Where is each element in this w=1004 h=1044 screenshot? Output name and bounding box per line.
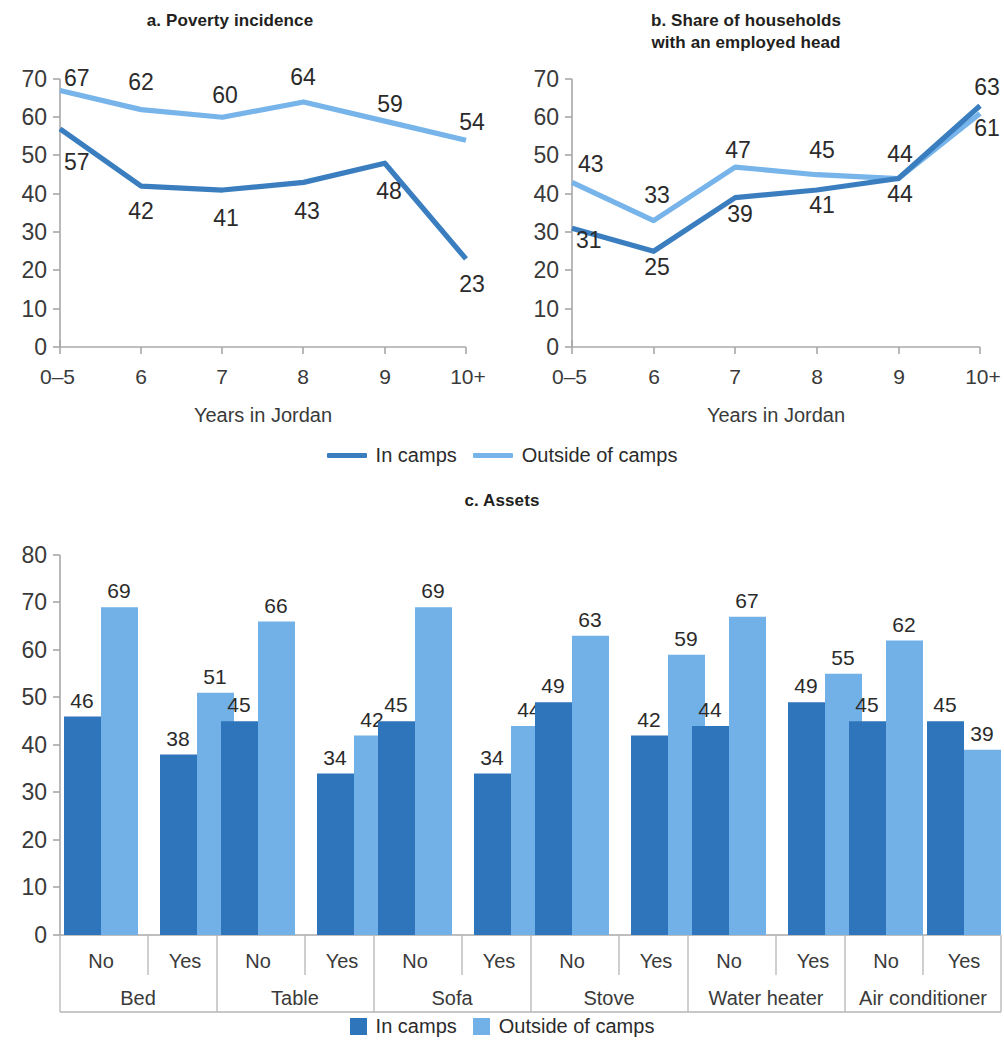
bar-value-label: 49	[794, 674, 817, 697]
data-label: 64	[290, 64, 316, 90]
legend-swatch-outside-of-camps-bar	[473, 1018, 490, 1035]
bar-value-label: 69	[421, 579, 444, 602]
x-tick-label-1: 6	[135, 365, 147, 388]
data-label: 62	[128, 69, 154, 95]
data-label: 61	[974, 115, 1000, 141]
bar-in-camps	[849, 721, 886, 935]
x-tick-label-4: 9	[379, 365, 391, 388]
bar-outside	[101, 607, 138, 935]
y-tick-60: 60	[21, 104, 60, 130]
chart-a-x-axis: 0–5 6 7 8 9 10+ Years in Jordan	[40, 340, 486, 426]
bar-in-camps	[535, 702, 572, 935]
subcat-label: Yes	[640, 950, 673, 972]
subcat-label: Yes	[326, 950, 359, 972]
bar-value-label: 46	[70, 689, 93, 712]
chart-a-labels-outside: 67 62 60 64 59 54	[64, 64, 485, 135]
chart-b-x-axis-title: Years in Jordan	[707, 404, 845, 426]
chart-a-y-axis: 70 60 50 40 30 20 10 0	[21, 66, 60, 360]
chart-b-line-outside	[572, 113, 980, 220]
x-tick-label-0: 0–5	[552, 365, 587, 388]
group-label-sofa: Sofa	[431, 987, 473, 1009]
data-label: 33	[644, 182, 670, 208]
bar-outside	[964, 750, 1001, 935]
y-tick-0: 0	[34, 334, 60, 360]
subcat-label: Yes	[797, 950, 830, 972]
legend-label-in-camps: In camps	[376, 445, 457, 465]
subcat-label: No	[88, 950, 114, 972]
data-label: 48	[376, 178, 402, 204]
x-tick-label-3: 8	[297, 365, 309, 388]
bar-chart-legend: In camps Outside of camps	[252, 1012, 752, 1040]
y-tick-label: 10	[533, 296, 559, 322]
y-tick-30: 30	[21, 219, 60, 245]
bar-value-label: 67	[735, 589, 758, 612]
y-tick-label: 0	[34, 922, 47, 948]
bar-pair-air-conditioner-no: 45 62	[849, 613, 923, 936]
legend-label-in-camps-bar: In camps	[376, 1016, 457, 1036]
y-tick-label: 40	[533, 181, 559, 207]
y-tick-label: 60	[533, 104, 559, 130]
group-label-air-conditioner: Air conditioner	[859, 987, 987, 1009]
bar-pair-air-conditioner-yes: 45 39	[927, 693, 1001, 935]
chart-b-line-in-camps	[572, 106, 980, 251]
data-label: 67	[64, 65, 90, 91]
subcat-label: Yes	[169, 950, 202, 972]
bar-in-camps	[788, 702, 825, 935]
bar-value-label: 69	[107, 579, 130, 602]
y-tick-label: 30	[21, 779, 47, 805]
group-label-bed: Bed	[120, 987, 156, 1009]
bar-value-label: 34	[480, 746, 504, 769]
y-tick-label: 70	[533, 66, 559, 92]
bar-value-label: 49	[541, 674, 564, 697]
data-label: 44	[887, 181, 913, 207]
y-tick-label: 60	[21, 637, 47, 663]
bar-pair-water-heater-no: 44 67	[692, 589, 766, 935]
chart-c-category-axis: No Yes No Yes No Yes No Yes No Yes No Ye…	[60, 935, 1001, 1012]
legend-entry-in-camps: In camps	[327, 445, 457, 465]
data-label: 41	[809, 192, 835, 218]
bar-in-camps	[160, 755, 197, 936]
subcat-label: No	[559, 950, 585, 972]
y-tick-40: 40	[21, 181, 60, 207]
panel-poverty-incidence: a. Poverty incidence 70 60 50 40 30 20 1…	[0, 0, 502, 430]
bar-value-label: 66	[264, 594, 287, 617]
chart-b-plot: 70 60 50 40 30 20 10 0 0–5	[502, 0, 1004, 430]
group-label-stove: Stove	[583, 987, 634, 1009]
subcat-label: No	[716, 950, 742, 972]
y-tick-label: 30	[533, 219, 559, 245]
bar-value-label: 63	[578, 608, 601, 631]
data-label: 45	[809, 137, 835, 163]
data-label: 41	[213, 205, 239, 231]
y-tick-10: 10	[21, 296, 60, 322]
y-tick-20: 20	[21, 257, 60, 283]
legend-entry-in-camps-bar: In camps	[350, 1016, 457, 1036]
bar-in-camps	[474, 774, 511, 936]
group-label-water-heater: Water heater	[709, 987, 824, 1009]
bar-value-label: 39	[970, 722, 993, 745]
bar-in-camps	[221, 721, 258, 935]
data-label: 42	[128, 198, 154, 224]
data-label: 39	[727, 201, 753, 227]
y-tick-70: 70	[21, 66, 60, 92]
legend-entry-outside-of-camps: Outside of camps	[473, 445, 678, 465]
x-tick-label-3: 8	[811, 365, 823, 388]
bar-in-camps	[927, 721, 964, 935]
panel-employed-head-share: b. Share of households with an employed …	[502, 0, 1004, 430]
data-label: 57	[64, 149, 90, 175]
legend-label-outside-of-camps: Outside of camps	[522, 445, 678, 465]
line-charts-legend: In camps Outside of camps	[252, 440, 752, 470]
chart-a-line-in-camps	[60, 129, 466, 259]
x-tick-label-5: 10+	[450, 365, 486, 388]
data-label: 43	[294, 198, 320, 224]
legend-label-outside-of-camps-bar: Outside of camps	[499, 1016, 655, 1036]
bar-value-label: 45	[855, 693, 878, 716]
legend-entry-outside-of-camps-bar: Outside of camps	[473, 1016, 655, 1036]
data-label: 47	[725, 137, 751, 163]
legend-swatch-in-camps	[327, 453, 367, 458]
bar-outside	[572, 636, 609, 935]
x-tick-label-0: 0–5	[40, 365, 75, 388]
y-tick-label: 0	[34, 334, 47, 360]
data-label: 43	[578, 151, 604, 177]
y-tick-label: 70	[21, 66, 47, 92]
data-label: 31	[576, 227, 602, 253]
